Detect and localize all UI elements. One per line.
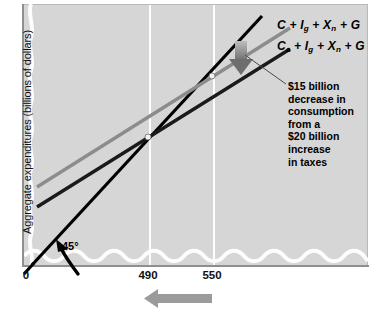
annotation-line-6: increase — [288, 143, 384, 156]
x-tick-label-490: 490 — [128, 269, 168, 281]
annotation-line-4: from a — [288, 118, 384, 131]
annotation-line-7: in taxes — [288, 156, 384, 169]
x-tick-label-0: 0 — [6, 269, 46, 281]
annotation-line-2: decrease in — [288, 93, 384, 106]
x-axis-line — [22, 265, 369, 267]
aggregate-expenditures-chart: Aggregate expenditures (billions of doll… — [0, 0, 390, 314]
annotation-line-1: $15 billion — [288, 80, 384, 93]
tax-effect-annotation: $15 billion decrease in consumption from… — [288, 80, 384, 168]
angle-label: 45° — [62, 240, 79, 252]
curve-label-after-tax: Ca + Ig + Xn + G — [277, 39, 365, 53]
gdp-decrease-arrow — [144, 289, 212, 308]
gridline-490 — [149, 5, 151, 265]
gridline-550 — [213, 5, 215, 265]
x-tick-label-550: 550 — [192, 269, 232, 281]
curve-label-before-tax: C + Ig + Xn + G — [277, 18, 360, 32]
annotation-line-5: $20 billion — [288, 130, 384, 143]
y-axis-title: Aggregate expenditures (billions of doll… — [21, 7, 33, 257]
annotation-line-3: consumption — [288, 105, 384, 118]
